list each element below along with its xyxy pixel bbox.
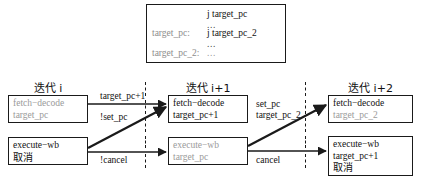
- column-title-iteration-i-plus-1: 迭代 i+1: [168, 79, 248, 95]
- stage-line: 取消: [333, 162, 412, 174]
- stage-line: 取消: [13, 152, 87, 164]
- stage-line: target_pc+1: [173, 110, 247, 122]
- code-row: target_pc_2: ...: [147, 47, 285, 60]
- diagram-canvas: j target_pc ... target_pc: j target_pc_2…: [0, 0, 422, 186]
- stage-line: fetch−decode: [333, 98, 412, 110]
- edge-label-set-pc: set_pc: [256, 99, 280, 111]
- stage-box-execute-wb-col2: execute−wb target_pc: [168, 137, 248, 165]
- stage-line: target_pc: [13, 110, 87, 122]
- stage-line: fetch−decode: [173, 98, 247, 110]
- column-title-iteration-i-plus-2: 迭代 i+2: [328, 79, 413, 95]
- edge-label-target-pc-2: target_pc_2: [256, 110, 301, 122]
- code-listing-box: j target_pc ... target_pc: j target_pc_2…: [146, 4, 286, 63]
- stage-box-execute-wb-col3: execute−wb target_pc+1 取消: [328, 136, 413, 176]
- stage-divider: [305, 136, 306, 148]
- stage-divider: [305, 118, 306, 132]
- code-ellipsis: ...: [207, 47, 216, 60]
- stage-divider: [305, 154, 306, 168]
- stage-line: execute−wb: [173, 140, 247, 152]
- stage-line: target_pc+1: [333, 151, 412, 163]
- stage-line: fetch−decode: [13, 98, 87, 110]
- stage-divider: [145, 154, 146, 168]
- code-label: target_pc_2:: [152, 47, 199, 60]
- edge-label-not-cancel: !cancel: [100, 155, 127, 167]
- stage-box-fetch-decode-col3: fetch−decode target_pc_2: [328, 95, 413, 123]
- stage-line: execute−wb: [13, 140, 87, 152]
- edge-label-target-pc-plus-1: target_pc+1: [100, 91, 145, 103]
- stage-box-fetch-decode-col1: fetch−decode target_pc: [8, 95, 88, 123]
- stage-line: target_pc_2: [333, 110, 412, 122]
- stage-line: target_pc: [173, 152, 247, 164]
- stage-divider: [145, 118, 146, 132]
- stage-box-fetch-decode-col2: fetch−decode target_pc+1: [168, 95, 248, 123]
- column-title-iteration-i: 迭代 i: [8, 79, 88, 95]
- stage-divider: [305, 100, 306, 114]
- edge-label-not-set-pc: !set_pc: [100, 112, 127, 124]
- stage-divider: [145, 136, 146, 148]
- edge-label-cancel: cancel: [256, 155, 280, 167]
- stage-divider: [305, 82, 306, 96]
- stage-box-execute-wb-col1: execute−wb 取消: [8, 137, 88, 165]
- stage-line: execute−wb: [333, 139, 412, 151]
